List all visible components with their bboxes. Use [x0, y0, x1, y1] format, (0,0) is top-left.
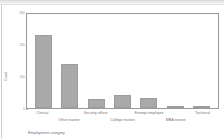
document-canvas: 0100200300 Count ClericalOffice traineeS…	[1, 5, 224, 138]
bar-slot	[162, 14, 188, 108]
x-tick-label: College trainee	[110, 118, 134, 122]
x-tick-label: Exempt employee	[135, 111, 164, 115]
y-tick-label: 0	[23, 107, 25, 111]
x-axis: ClericalOffice traineeSecurity officerCo…	[26, 110, 219, 126]
y-tick-label: 300	[19, 11, 25, 15]
bar-slot	[56, 14, 82, 108]
bar[interactable]	[167, 106, 184, 108]
x-tick-label: Security officer	[84, 111, 108, 115]
y-tick-label: 200	[19, 43, 25, 47]
bar-slot	[136, 14, 162, 108]
y-tick-label: 100	[19, 75, 25, 79]
bar-slot	[109, 14, 135, 108]
bar[interactable]	[35, 35, 52, 108]
x-tick-label: Office trainee	[58, 118, 79, 122]
bar-slot	[83, 14, 109, 108]
x-tick-label: Clerical	[36, 111, 48, 115]
bar-series	[27, 14, 218, 108]
x-axis-title: Employment category	[28, 131, 65, 135]
bar-slot	[189, 14, 215, 108]
bar[interactable]	[61, 64, 78, 108]
y-axis-title: Count	[4, 72, 8, 81]
y-axis: 0100200300	[2, 13, 26, 109]
plot-area	[26, 13, 219, 109]
bar[interactable]	[193, 106, 210, 108]
bar[interactable]	[140, 98, 157, 108]
chart-screenshot: 0100200300 Count ClericalOffice traineeS…	[0, 0, 224, 139]
bar[interactable]	[88, 99, 105, 108]
bar-slot	[30, 14, 56, 108]
bar[interactable]	[114, 95, 131, 108]
x-tick-label: MBA trainee	[166, 118, 186, 122]
x-tick-label: Technical	[195, 111, 210, 115]
